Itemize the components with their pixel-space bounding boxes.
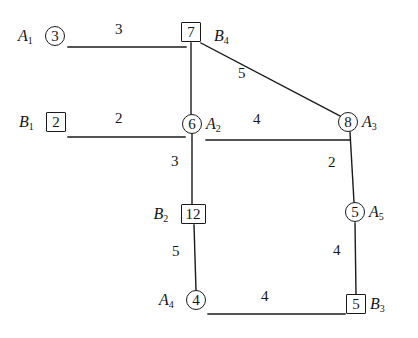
- node-label-n3: A1: [18, 28, 33, 46]
- node-value: 5: [352, 297, 360, 312]
- edge-weight-e-4-5s: 4: [261, 289, 269, 304]
- label-letter: A: [206, 115, 216, 132]
- node-label-n8: A3: [362, 114, 377, 132]
- node-value: 12: [186, 207, 201, 222]
- node-n4[interactable]: 4: [186, 290, 206, 310]
- edge-weight-e-7-8: 5: [238, 66, 246, 81]
- node-value: 3: [51, 29, 59, 44]
- label-letter: B: [154, 205, 164, 222]
- node-value: 6: [188, 117, 196, 132]
- edge-e-8-5: [350, 132, 354, 202]
- node-label-n12: B2: [154, 206, 169, 224]
- node-value: 2: [52, 115, 60, 130]
- label-subscript: 1: [28, 35, 33, 46]
- label-subscript: 4: [224, 35, 229, 46]
- node-label-n5c: A5: [369, 204, 384, 222]
- edge-weight-e-5-5: 4: [333, 243, 341, 258]
- edge-e-12-4: [194, 225, 196, 290]
- node-label-n2: B1: [19, 114, 34, 132]
- node-n8[interactable]: 8: [338, 112, 358, 132]
- label-subscript: 5: [379, 211, 384, 222]
- label-letter: B: [370, 295, 380, 312]
- edge-weight-e-12-4: 5: [172, 244, 180, 259]
- label-letter: B: [214, 27, 224, 44]
- node-value: 4: [192, 293, 200, 308]
- node-n7[interactable]: 7: [181, 22, 201, 42]
- node-n5c[interactable]: 5: [345, 202, 365, 222]
- label-letter: A: [369, 203, 379, 220]
- label-subscript: 2: [163, 213, 168, 224]
- node-n3[interactable]: 3: [45, 26, 65, 46]
- node-n5s[interactable]: 5: [346, 294, 366, 314]
- label-subscript: 3: [372, 121, 377, 132]
- edge-weight-e-b1-6: 2: [115, 111, 123, 126]
- node-value: 5: [351, 205, 359, 220]
- edge-layer: [0, 0, 418, 338]
- node-value: 7: [187, 25, 195, 40]
- node-n2[interactable]: 2: [46, 112, 66, 132]
- label-subscript: 2: [216, 123, 221, 134]
- label-letter: A: [18, 27, 28, 44]
- label-letter: A: [362, 113, 372, 130]
- edge-e-5-5: [355, 223, 356, 294]
- node-n12[interactable]: 12: [181, 204, 206, 224]
- edge-weight-e-a1-7: 3: [115, 22, 123, 37]
- edge-weight-e-6-8: 4: [253, 112, 261, 127]
- label-letter: A: [159, 291, 169, 308]
- extra-label-b4: B4: [214, 28, 229, 46]
- node-value: 8: [344, 115, 352, 130]
- node-n6[interactable]: 6: [182, 114, 202, 134]
- node-label-n5s: B3: [370, 296, 385, 314]
- edge-weight-e-6-12: 3: [171, 154, 179, 169]
- edge-e-7-8: [201, 43, 344, 118]
- label-subscript: 4: [169, 299, 174, 310]
- node-label-n4: A4: [159, 292, 174, 310]
- label-subscript: 1: [29, 121, 34, 132]
- node-label-n6: A2: [206, 116, 221, 134]
- edge-weight-e-8-5: 2: [328, 155, 336, 170]
- label-letter: B: [19, 113, 29, 130]
- diagram-canvas: 35243254473A12B16A28A312B25A54A45B3B4: [0, 0, 418, 338]
- label-subscript: 3: [380, 303, 385, 314]
